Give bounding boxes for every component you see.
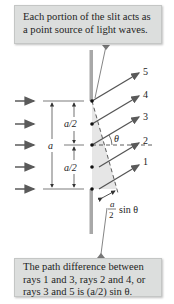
path-diff-denominator: 2 — [109, 210, 114, 220]
ray-label-5: 5 — [143, 66, 148, 77]
bottom-callout-pointer — [101, 208, 107, 254]
ray-label-2: 2 — [143, 135, 148, 146]
angle-theta-arc — [109, 135, 112, 145]
path-diff-numerator: a — [110, 199, 115, 209]
top-callout-line-1: Each portion of the slit acts as — [23, 11, 155, 24]
top-callout-pointer — [95, 46, 106, 98]
slit-width-label: a — [48, 140, 53, 151]
bottom-callout-line-2: rays 1 and 3, rays 2 and 4, or — [23, 274, 157, 287]
top-callout-pointer-tip — [102, 45, 110, 50]
ray-label-4: 4 — [143, 89, 148, 100]
slit-lower-barrier — [90, 189, 94, 234]
ray-label-3: 3 — [143, 111, 148, 122]
slit-upper-barrier — [90, 50, 94, 101]
ray-label-1: 1 — [143, 156, 148, 167]
incident-arrows — [15, 101, 34, 189]
path-difference-marker — [102, 191, 115, 198]
half-width-label-upper: a/2 — [64, 118, 77, 129]
half-width-label-lower: a/2 — [64, 162, 77, 173]
top-callout-line-2: a point source of light waves. — [23, 24, 155, 37]
bottom-callout: The path difference between rays 1 and 3… — [14, 258, 162, 297]
bottom-callout-line-1: The path difference between — [23, 261, 157, 274]
bottom-callout-line-3: rays 3 and 5 is (a/2) sin θ. — [23, 286, 157, 299]
path-diff-suffix: sin θ — [119, 204, 138, 215]
top-callout: Each portion of the slit acts as a point… — [14, 5, 162, 44]
angle-theta-label: θ — [114, 133, 119, 144]
